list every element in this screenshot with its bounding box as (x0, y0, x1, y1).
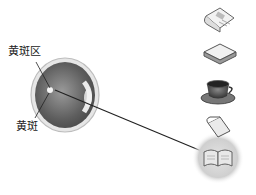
coffee-cup-icon (201, 81, 235, 105)
macula-label: 黄斑 (16, 121, 38, 133)
eyeball (31, 58, 99, 132)
open-book-icon (204, 150, 232, 166)
diagram-canvas (0, 0, 256, 195)
newspaper-icon (204, 8, 234, 32)
macula-area-label: 黄斑区 (8, 46, 41, 58)
book-closed-icon (204, 44, 236, 64)
